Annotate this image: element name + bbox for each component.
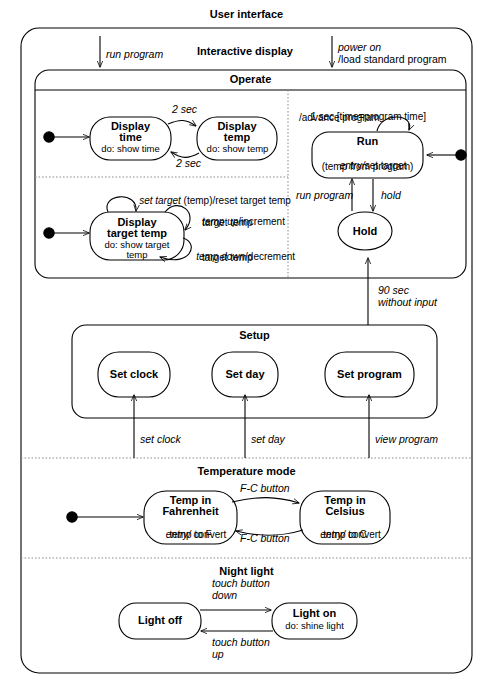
initial-pseudostate-display-target-temp xyxy=(44,228,54,238)
transition-label-temp-down-line2: target temp xyxy=(202,252,253,263)
transition-label-run-self-action: /advance program xyxy=(299,112,380,123)
transition-label-ninety-sec-line2: without input xyxy=(378,297,437,309)
transition-label-power-on: power on xyxy=(338,42,381,54)
transition-label-temp-to-time: 2 sec xyxy=(176,158,201,170)
transition-label-ninety-sec-line1: 90 sec xyxy=(378,285,409,297)
state-label-display-temp-line2: temp xyxy=(197,131,277,143)
state-label-set-program: Set program xyxy=(325,368,414,380)
state-activity-display-temp: do: show temp xyxy=(192,144,283,155)
transition-label-touch-down-line2: down xyxy=(212,590,237,602)
transition-label-temp-up-line2: target temp xyxy=(202,217,253,228)
transition-label-time-to-temp: 2 sec xyxy=(172,104,197,116)
arrow-fahrenheit-to-celsius xyxy=(232,498,299,503)
region-title-user-interface: User interface xyxy=(0,8,493,20)
state-entry-detail-run: (temp from program) xyxy=(308,161,427,172)
transition-label-power-on-action: /load standard program xyxy=(338,54,447,66)
state-label-light-on: Light on xyxy=(272,607,357,619)
transition-label-c-to-f: F-C button xyxy=(240,533,290,545)
arrow-display-time-to-temp xyxy=(168,120,196,126)
transition-label-hold-to-run: run program xyxy=(296,190,353,202)
transition-label-touch-up-line1: touch button xyxy=(212,637,270,649)
initial-pseudostate-display-time xyxy=(44,132,54,142)
state-entry-detail-temp-fahrenheit: temp to F xyxy=(144,529,237,540)
state-entry-detail-temp-celsius: temp to C xyxy=(300,529,390,540)
state-label-display-target-temp-line2: target temp xyxy=(90,227,184,239)
transition-label-run-program-top: run program xyxy=(106,49,163,61)
transition-label-run-to-hold: hold xyxy=(381,190,401,202)
region-title-operate: Operate xyxy=(35,73,466,85)
region-title-temperature-mode: Temperature mode xyxy=(0,465,493,477)
state-label-display-time-line2: time xyxy=(90,131,171,143)
region-title-interactive-display: Interactive display xyxy=(150,45,340,57)
state-label-set-day: Set day xyxy=(212,368,278,380)
state-machine-diagram: User interface Interactive display Opera… xyxy=(0,0,493,683)
transition-label-set-target-event: set target xyxy=(139,195,181,206)
transition-label-touch-up-line2: up xyxy=(212,649,224,661)
state-activity-display-time: do: show time xyxy=(85,144,176,155)
transition-label-touch-down-line1: touch button xyxy=(212,578,270,590)
region-title-setup: Setup xyxy=(72,329,437,341)
transition-label-f-to-c: F-C button xyxy=(240,483,290,495)
state-activity-light-on: do: shine light xyxy=(267,621,362,632)
transition-label-view-program: view program xyxy=(375,434,438,446)
state-label-light-off: Light off xyxy=(119,614,201,626)
state-label-set-clock: Set clock xyxy=(98,368,170,380)
region-title-night-light: Night light xyxy=(0,565,493,577)
state-label-temp-celsius-line2: Celsius xyxy=(300,505,390,517)
state-label-run: Run xyxy=(312,135,423,147)
state-label-temp-fahrenheit-line2: Fahrenheit xyxy=(144,505,237,517)
state-activity-display-target-temp-line2: temp xyxy=(90,250,184,261)
initial-pseudostate-temp-fahrenheit xyxy=(67,512,77,522)
state-label-hold: Hold xyxy=(338,225,392,237)
transition-label-set-clock: set clock xyxy=(140,434,181,446)
initial-pseudostate-run xyxy=(456,150,466,160)
transition-label-set-day: set day xyxy=(251,434,285,446)
